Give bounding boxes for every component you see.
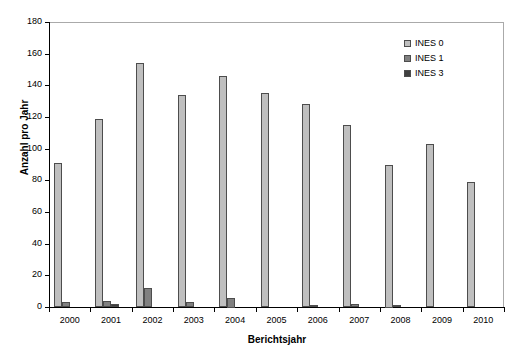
legend-label: INES 3 — [415, 69, 444, 78]
x-tick-mark — [214, 308, 215, 312]
bar — [261, 93, 269, 307]
y-tick-mark — [45, 22, 49, 23]
bar — [103, 301, 111, 307]
x-axis-line — [49, 307, 505, 308]
x-tick-label: 2006 — [296, 315, 340, 325]
x-tick-label: 2008 — [379, 315, 423, 325]
y-tick-mark — [45, 244, 49, 245]
y-tick-mark — [45, 85, 49, 86]
y-tick-mark — [45, 149, 49, 150]
y-axis-title: Anzahl pro Jahr — [19, 58, 30, 218]
y-tick-mark — [45, 212, 49, 213]
bar-chart: 020406080100120140160180 200020012002200… — [0, 0, 510, 358]
y-axis-line — [49, 22, 50, 308]
y-tick-label: 0 — [0, 302, 42, 311]
legend-label: INES 0 — [415, 39, 444, 48]
bar — [144, 288, 152, 307]
legend-label: INES 1 — [415, 54, 444, 63]
bar — [178, 95, 186, 307]
legend: INES 0INES 1INES 3 — [404, 36, 444, 81]
bar — [467, 182, 475, 307]
x-tick-mark — [504, 308, 505, 312]
x-tick-label: 2002 — [130, 315, 174, 325]
x-tick-label: 2004 — [213, 315, 257, 325]
x-tick-label: 2001 — [89, 315, 133, 325]
x-tick-mark — [463, 308, 464, 312]
bar — [111, 304, 119, 307]
y-tick-mark — [45, 54, 49, 55]
bar — [343, 125, 351, 307]
bar — [385, 165, 393, 308]
x-tick-mark — [421, 308, 422, 312]
legend-swatch-icon — [404, 70, 411, 77]
legend-item: INES 3 — [404, 66, 444, 80]
bar — [227, 298, 235, 308]
x-tick-label: 2005 — [255, 315, 299, 325]
x-tick-label: 2010 — [461, 315, 505, 325]
bar — [426, 144, 434, 307]
legend-swatch-icon — [404, 40, 411, 47]
legend-item: INES 0 — [404, 36, 444, 50]
y-tick-label: 40 — [0, 239, 42, 248]
bar — [62, 302, 70, 307]
y-tick-label: 160 — [0, 49, 42, 58]
bar — [219, 76, 227, 307]
bar — [95, 119, 103, 307]
x-tick-mark — [173, 308, 174, 312]
x-tick-mark — [339, 308, 340, 312]
x-tick-label: 2003 — [172, 315, 216, 325]
x-tick-mark — [297, 308, 298, 312]
legend-swatch-icon — [404, 55, 411, 62]
x-tick-mark — [380, 308, 381, 312]
bar — [186, 302, 194, 307]
x-tick-mark — [132, 308, 133, 312]
bar — [310, 305, 318, 307]
x-tick-mark — [90, 308, 91, 312]
x-tick-label: 2000 — [48, 315, 92, 325]
bar — [351, 304, 359, 307]
x-tick-label: 2009 — [420, 315, 464, 325]
y-tick-mark — [45, 180, 49, 181]
bar — [302, 104, 310, 307]
x-tick-mark — [256, 308, 257, 312]
y-tick-mark — [45, 117, 49, 118]
x-axis-title: Berichtsjahr — [49, 334, 505, 345]
y-tick-mark — [45, 275, 49, 276]
bar — [393, 305, 401, 307]
legend-item: INES 1 — [404, 51, 444, 65]
x-tick-label: 2007 — [337, 315, 381, 325]
x-tick-mark — [49, 308, 50, 312]
y-tick-label: 20 — [0, 270, 42, 279]
bar — [136, 63, 144, 307]
bar — [54, 163, 62, 307]
y-tick-label: 180 — [0, 17, 42, 26]
